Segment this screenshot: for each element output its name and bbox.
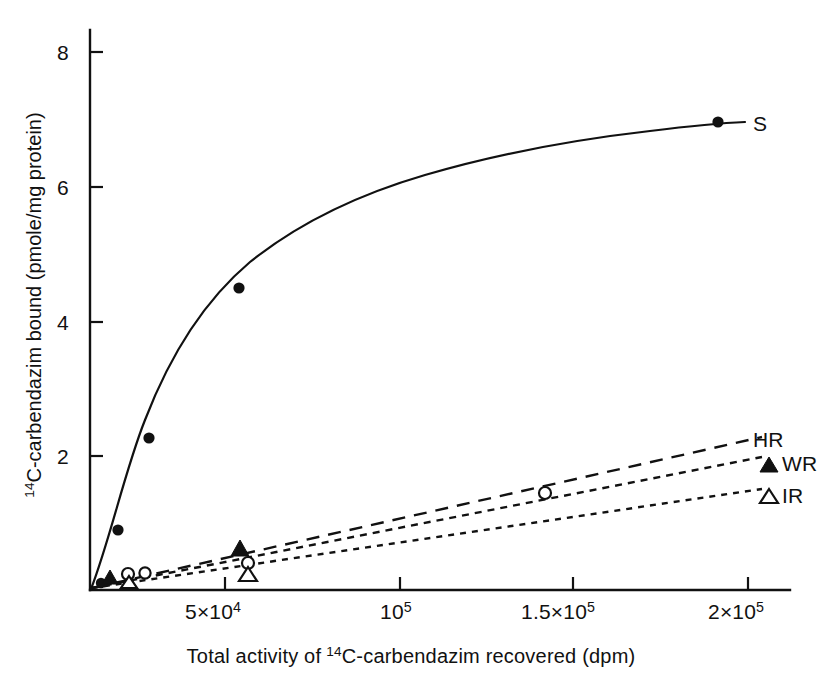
x-axis-title-lead: Total activity of <box>187 645 322 667</box>
plot-canvas <box>0 0 822 690</box>
x-axis-title-text: C-carbendazim recovered (dpm) <box>342 645 636 667</box>
series-hr-line <box>92 437 762 588</box>
x-tick-5e4-exponent: 4 <box>233 599 241 615</box>
point-s-3 <box>143 432 154 443</box>
x-tick-label-5e4: 5×104 <box>185 600 241 624</box>
point-wr-1 <box>102 570 118 584</box>
legend-ir-marker <box>760 489 778 503</box>
x-tick-label-1e5: 105 <box>380 600 412 624</box>
legend-markers <box>760 457 778 503</box>
x-tick-2e5-mantissa: 2×10 <box>708 600 756 623</box>
x-tick-1p5e5-mantissa: 1.5×10 <box>521 600 587 623</box>
x-tick-5e4-mantissa: 5×10 <box>185 600 233 623</box>
x-tick-label-2e5: 2×105 <box>708 600 764 624</box>
legend-wr-marker <box>760 457 778 472</box>
point-hr-4 <box>539 487 551 499</box>
point-s-2 <box>112 524 123 535</box>
series-label-s: S <box>753 112 767 136</box>
y-axis-ticks <box>90 52 103 456</box>
y-tick-label-2: 2 <box>57 445 69 469</box>
series-wr-line <box>92 457 762 588</box>
y-tick-label-4: 4 <box>57 311 69 335</box>
x-tick-1e5-mantissa: 10 <box>380 600 404 623</box>
y-axis-title-isotope: 14 <box>21 483 36 498</box>
point-s-5 <box>712 116 723 127</box>
y-tick-label-8: 8 <box>57 41 69 65</box>
x-axis-ticks <box>225 577 748 590</box>
x-tick-1p5e5-exponent: 5 <box>587 599 595 615</box>
x-axis-title: Total activity of14C-carbendazim recover… <box>0 645 822 668</box>
x-tick-2e5-exponent: 5 <box>756 599 764 615</box>
x-tick-1e5-exponent: 5 <box>404 599 412 615</box>
series-label-hr: HR <box>753 428 784 452</box>
series-label-wr: WR <box>782 452 817 476</box>
chart-figure: 8 6 4 2 5×104 105 1.5×105 2×105 S HR WR … <box>0 0 822 690</box>
point-hr-2 <box>139 567 150 578</box>
series-label-ir: IR <box>782 484 803 508</box>
point-ir-2 <box>239 567 257 581</box>
axis-lines <box>90 30 790 590</box>
series-s-points <box>96 116 724 588</box>
point-s-4 <box>233 282 244 293</box>
x-tick-label-1p5e5: 1.5×105 <box>521 600 595 624</box>
y-axis-title: 14C-carbendazim bound (pmole/mg protein) <box>23 112 46 497</box>
y-axis-title-text: C-carbendazim bound (pmole/mg protein) <box>23 112 45 482</box>
x-axis-title-isotope: 14 <box>326 644 342 659</box>
point-wr-2 <box>231 540 249 556</box>
y-axis-title-wrapper: 14C-carbendazim bound (pmole/mg protein) <box>14 0 54 610</box>
series-ir-line <box>92 489 762 588</box>
series-s-curve <box>91 122 745 589</box>
y-tick-label-6: 6 <box>57 176 69 200</box>
